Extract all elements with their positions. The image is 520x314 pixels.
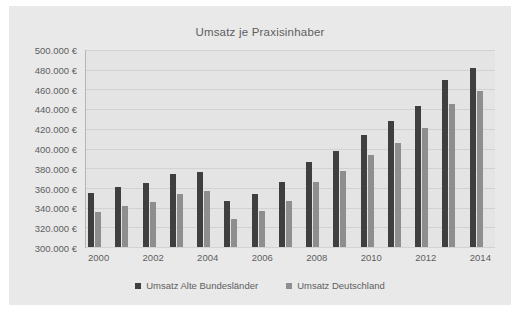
bar: [340, 171, 346, 247]
bar: [170, 174, 176, 247]
bar: [442, 80, 448, 247]
chart-legend: Umsatz Alte BundesländerUmsatz Deutschla…: [9, 280, 511, 291]
bar: [88, 193, 94, 247]
bar: [422, 128, 428, 247]
x-axis-tick-label: 2006: [252, 252, 273, 263]
y-axis-tick-label: 480.000 €: [35, 64, 77, 75]
bars-layer: [86, 50, 495, 247]
bar: [231, 219, 237, 247]
bar: [150, 202, 156, 247]
bar: [204, 191, 210, 247]
bar: [252, 194, 258, 247]
bar-group: [331, 50, 358, 247]
chart-title: Umsatz je Praxisinhaber: [9, 26, 511, 38]
bar: [224, 201, 230, 247]
x-axis-tick-label: 2002: [143, 252, 164, 263]
bar-group: [277, 50, 304, 247]
x-axis-tick-label: 2010: [361, 252, 382, 263]
x-axis-tick-label: 2008: [306, 252, 327, 263]
bar-group: [222, 50, 249, 247]
bar: [415, 106, 421, 247]
bar-group: [113, 50, 140, 247]
bar-group: [359, 50, 386, 247]
x-axis: 20002002200420062008201020122014: [85, 252, 495, 268]
bar-group: [386, 50, 413, 247]
bar: [333, 151, 339, 247]
y-axis-tick-label: 440.000 €: [35, 104, 77, 115]
y-axis-tick-label: 380.000 €: [35, 163, 77, 174]
bar: [143, 183, 149, 247]
bar-group: [250, 50, 277, 247]
bar: [306, 162, 312, 247]
bar: [449, 104, 455, 247]
legend-label: Umsatz Alte Bundesländer: [146, 280, 258, 291]
bar-group: [468, 50, 495, 247]
x-axis-tick-label: 2014: [470, 252, 491, 263]
y-axis-tick-label: 400.000 €: [35, 144, 77, 155]
bar: [477, 91, 483, 247]
x-axis-tick-label: 2012: [415, 252, 436, 263]
bar-group: [86, 50, 113, 247]
chart-card: Umsatz je Praxisinhaber 500.000 €480.000…: [9, 6, 511, 305]
bar: [197, 172, 203, 247]
legend-swatch-icon: [286, 283, 292, 289]
bar: [122, 206, 128, 247]
y-axis-tick-label: 300.000 €: [35, 243, 77, 254]
bar: [279, 182, 285, 247]
y-axis-tick-label: 360.000 €: [35, 183, 77, 194]
bar: [259, 211, 265, 247]
bar-group: [168, 50, 195, 247]
bar-group: [440, 50, 467, 247]
bar: [313, 182, 319, 247]
y-axis-tick-label: 340.000 €: [35, 203, 77, 214]
legend-item[interactable]: Umsatz Deutschland: [286, 280, 385, 291]
bar-group: [304, 50, 331, 247]
gridline: [86, 247, 495, 248]
bar: [361, 135, 367, 247]
bar: [470, 68, 476, 247]
legend-item[interactable]: Umsatz Alte Bundesländer: [135, 280, 258, 291]
legend-label: Umsatz Deutschland: [297, 280, 385, 291]
y-axis-tick-label: 460.000 €: [35, 84, 77, 95]
bar: [95, 212, 101, 247]
bar: [177, 194, 183, 247]
bar: [388, 121, 394, 247]
bar-group: [195, 50, 222, 247]
bar: [115, 187, 121, 247]
legend-swatch-icon: [135, 283, 141, 289]
x-axis-tick-label: 2000: [88, 252, 109, 263]
bar: [286, 201, 292, 247]
bar: [395, 143, 401, 247]
bar: [368, 155, 374, 247]
bar-group: [141, 50, 168, 247]
y-axis-tick-label: 420.000 €: [35, 124, 77, 135]
plot-area: [85, 50, 495, 248]
y-axis-tick-label: 320.000 €: [35, 223, 77, 234]
bar-group: [413, 50, 440, 247]
y-axis: 500.000 €480.000 €460.000 €440.000 €420.…: [9, 50, 83, 248]
y-axis-tick-label: 500.000 €: [35, 45, 77, 56]
x-axis-tick-label: 2004: [197, 252, 218, 263]
